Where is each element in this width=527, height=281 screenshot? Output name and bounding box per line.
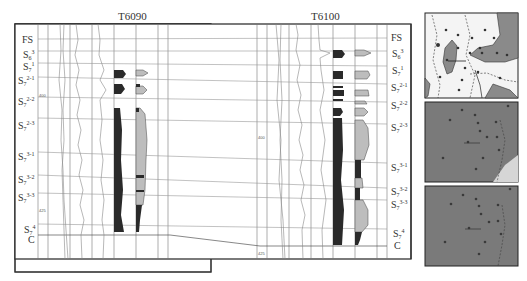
- map-top: [425, 13, 518, 98]
- map-bottom: [425, 186, 518, 266]
- map-middle: [425, 102, 518, 182]
- map-panels: [0, 0, 527, 281]
